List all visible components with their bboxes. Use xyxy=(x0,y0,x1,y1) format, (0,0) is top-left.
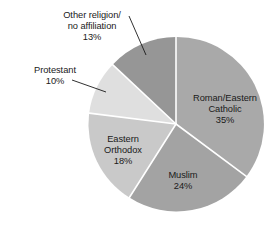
pie-label-muslim-line1: Muslim xyxy=(147,170,219,181)
pie-label-protestant-value: 10% xyxy=(7,76,103,87)
pie-label-roman-eastern-catholic-value: 35% xyxy=(178,115,272,126)
pie-label-other-religion-line2: no affiliation xyxy=(33,21,151,32)
pie-label-muslim-value: 24% xyxy=(147,181,219,192)
pie-label-roman-eastern-catholic-line2: Catholic xyxy=(178,104,272,115)
pie-label-protestant: Protestant 10% xyxy=(7,65,103,87)
pie-label-other-religion-value: 13% xyxy=(33,32,151,43)
pie-label-roman-eastern-catholic: Roman/Eastern Catholic 35% xyxy=(178,93,272,127)
pie-chart: Other religion/ no affiliation 13% Prote… xyxy=(0,0,279,234)
pie-label-muslim: Muslim 24% xyxy=(147,170,219,192)
pie-label-roman-eastern-catholic-line1: Roman/Eastern xyxy=(178,93,272,104)
pie-label-eastern-orthodox-line2: Orthodox xyxy=(80,145,166,156)
pie-label-other-religion-line1: Other religion/ xyxy=(33,10,151,21)
pie-label-eastern-orthodox: Eastern Orthodox 18% xyxy=(80,134,166,168)
pie-label-eastern-orthodox-value: 18% xyxy=(80,156,166,167)
pie-label-eastern-orthodox-line1: Eastern xyxy=(80,134,166,145)
pie-label-other-religion: Other religion/ no affiliation 13% xyxy=(33,10,151,44)
pie-label-protestant-line1: Protestant xyxy=(7,65,103,76)
